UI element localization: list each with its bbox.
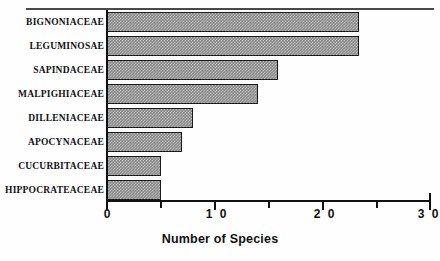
bar-cucurbitaceae xyxy=(107,156,161,176)
bar-hippocrateaceae xyxy=(107,180,161,200)
bar-row: SAPINDACEAE xyxy=(0,60,440,80)
category-label: CUCURBITACEAE xyxy=(18,156,104,176)
category-label: BIGNONIACEAE xyxy=(26,12,104,32)
bar-row: LEGUMINOSAE xyxy=(0,36,440,56)
bar-malpighiaceae xyxy=(107,84,258,104)
y-axis-line xyxy=(106,10,108,202)
bar-sapindaceae xyxy=(107,60,278,80)
category-label: DILLENIACEAE xyxy=(28,108,104,128)
x-axis-end-cap xyxy=(429,193,431,202)
bar-dilleniaceae xyxy=(107,108,193,128)
x-tick-label-10: 1 0 xyxy=(197,207,237,221)
bar-chart-plot-area: BIGNONIACEAE LEGUMINOSAE SAPINDACEAE MAL… xyxy=(0,0,440,261)
category-label: MALPIGHIACEAE xyxy=(18,84,104,104)
bar-row: DILLENIACEAE xyxy=(0,108,440,128)
x-tick-15 xyxy=(268,202,270,208)
category-label: SAPINDACEAE xyxy=(33,60,104,80)
bar-row: BIGNONIACEAE xyxy=(0,12,440,32)
bar-apocynaceae xyxy=(107,132,182,152)
category-label: APOCYNACEAE xyxy=(28,132,104,152)
x-tick-label-0: 0 xyxy=(88,207,128,221)
x-tick-label-20: 2 0 xyxy=(305,207,345,221)
bar-bignoniaceae xyxy=(107,12,359,32)
x-tick-5 xyxy=(160,202,162,208)
bar-row: CUCURBITACEAE xyxy=(0,156,440,176)
bar-leguminosae xyxy=(107,36,359,56)
bar-row: MALPIGHIACEAE xyxy=(0,84,440,104)
x-tick-label-30: 3 0 xyxy=(409,207,440,221)
bar-row: APOCYNACEAE xyxy=(0,132,440,152)
category-label: LEGUMINOSAE xyxy=(29,36,104,56)
x-axis-title: Number of Species xyxy=(0,232,440,246)
category-label: HIPPOCRATEACEAE xyxy=(5,180,104,200)
bar-row: HIPPOCRATEACEAE xyxy=(0,180,440,200)
figure: BIGNONIACEAE LEGUMINOSAE SAPINDACEAE MAL… xyxy=(0,0,440,261)
x-tick-25 xyxy=(376,202,378,208)
